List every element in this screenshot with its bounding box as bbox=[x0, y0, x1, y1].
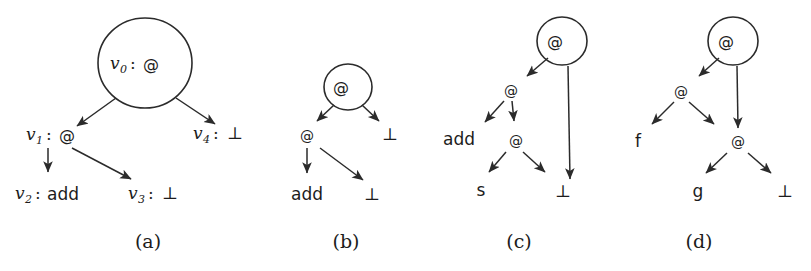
node-v3-var: v bbox=[128, 183, 138, 203]
node-v0-symbol: @ bbox=[143, 55, 159, 74]
caption-c: (c) bbox=[506, 230, 531, 252]
edge-b0-b1 bbox=[317, 105, 334, 121]
node-v1-colon: : bbox=[46, 124, 52, 144]
edge-v1-v3 bbox=[72, 148, 131, 179]
edge-b0-b2 bbox=[362, 105, 379, 121]
edge-c1-c2 bbox=[485, 101, 504, 122]
node-c1-label: @ bbox=[504, 83, 518, 99]
node-v3-symbol: ⊥ bbox=[162, 183, 178, 203]
node-v4-var: v bbox=[193, 123, 203, 143]
node-b0-label: @ bbox=[333, 78, 349, 97]
node-v2-subscript: 2 bbox=[24, 193, 32, 206]
node-v1-var: v bbox=[26, 124, 36, 144]
node-v1-subscript: 1 bbox=[36, 134, 43, 147]
panel-c: @ @ add @ s ⊥ (c) bbox=[443, 17, 587, 252]
panel-b: @ @ ⊥ add ⊥ (b) bbox=[291, 64, 398, 252]
node-v1-symbol: @ bbox=[59, 126, 75, 145]
node-b2-label: ⊥ bbox=[382, 124, 398, 144]
node-d3-label: @ bbox=[731, 134, 745, 150]
node-b3-label: add bbox=[291, 184, 323, 204]
node-c4-label: s bbox=[477, 180, 486, 200]
edge-c0-c5 bbox=[568, 66, 570, 179]
edge-d3-d5 bbox=[748, 153, 771, 173]
node-v4-colon: : bbox=[213, 123, 219, 143]
node-v3-label: v 3 : ⊥ bbox=[128, 183, 178, 206]
node-v0-var: v bbox=[110, 53, 120, 73]
node-b4-label: ⊥ bbox=[364, 184, 380, 204]
node-d4-label: g bbox=[693, 181, 704, 201]
node-v2-var: v bbox=[15, 183, 25, 203]
edge-b1-b4 bbox=[320, 148, 363, 180]
edge-c3-c5 bbox=[523, 152, 545, 172]
node-d2-label: f bbox=[635, 131, 642, 151]
node-v4-subscript: 4 bbox=[202, 133, 210, 146]
caption-a: (a) bbox=[135, 230, 161, 252]
edge-v0-v4 bbox=[176, 98, 215, 124]
node-c3-label: @ bbox=[509, 133, 523, 149]
node-v2-symbol: add bbox=[47, 184, 79, 204]
node-v4-symbol: ⊥ bbox=[227, 123, 243, 143]
node-v3-colon: : bbox=[148, 183, 154, 203]
node-v1-label: v 1 : @ bbox=[26, 124, 75, 147]
edge-d3-d4 bbox=[706, 153, 727, 173]
node-b1-label: @ bbox=[300, 128, 314, 144]
node-d5-label: ⊥ bbox=[777, 181, 793, 201]
edge-d1-d3 bbox=[689, 102, 714, 124]
node-d1-label: @ bbox=[674, 84, 688, 100]
edge-c0-c1 bbox=[527, 58, 548, 76]
edge-d1-d2 bbox=[652, 102, 674, 124]
panel-a: v 0 : @ v 1 : @ v 4 : ⊥ v 2 bbox=[15, 18, 243, 252]
caption-d: (d) bbox=[686, 230, 713, 252]
node-c2-label: add bbox=[443, 129, 475, 149]
node-c5-label: ⊥ bbox=[555, 181, 571, 201]
node-d0-label: @ bbox=[718, 32, 734, 51]
node-v0-subscript: 0 bbox=[120, 63, 127, 76]
node-v2-colon: : bbox=[35, 183, 41, 203]
node-v0-label: v 0 : @ bbox=[110, 53, 159, 76]
node-v3-subscript: 3 bbox=[138, 193, 145, 206]
node-v0-colon: : bbox=[130, 53, 136, 73]
edge-d0-d1 bbox=[699, 58, 719, 76]
node-v4-label: v 4 : ⊥ bbox=[193, 123, 243, 146]
edge-c1-c3 bbox=[512, 101, 514, 121]
node-v2-label: v 2 : add bbox=[15, 183, 79, 206]
figure-term-graphs: v 0 : @ v 1 : @ v 4 : ⊥ v 2 bbox=[0, 0, 811, 271]
panel-d: @ @ f @ g ⊥ (d) bbox=[635, 17, 793, 252]
edge-v0-v1 bbox=[77, 98, 116, 126]
caption-b: (b) bbox=[333, 230, 360, 252]
edge-c3-c4 bbox=[489, 152, 506, 172]
node-c0-label: @ bbox=[547, 32, 563, 51]
edge-d0-d3 bbox=[737, 66, 738, 128]
